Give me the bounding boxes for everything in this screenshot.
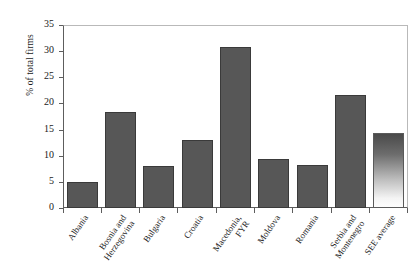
x-label-slot: Moldova bbox=[255, 211, 293, 279]
x-label-slot: Bulgaria bbox=[140, 211, 178, 279]
x-axis-label: Serbia andMontenegro bbox=[325, 213, 367, 261]
x-axis-label: Macedonia,FYR bbox=[211, 213, 252, 259]
x-label-slot: Serbia andMontenegro bbox=[331, 211, 369, 279]
x-axis-label-line: Albania bbox=[66, 213, 91, 242]
x-label-slot: Albania bbox=[63, 211, 101, 279]
bar[interactable] bbox=[143, 166, 174, 208]
y-tick-label: 0 bbox=[49, 201, 54, 212]
y-tick-label: 20 bbox=[44, 96, 54, 107]
bar[interactable] bbox=[373, 133, 404, 208]
bar-slot bbox=[140, 25, 178, 208]
y-tick-label: 15 bbox=[44, 123, 54, 134]
bar[interactable] bbox=[335, 95, 366, 208]
bar-slot bbox=[63, 25, 101, 208]
x-label-slot: Romania bbox=[293, 211, 331, 279]
bar[interactable] bbox=[182, 140, 213, 208]
x-axis-label-line: Moldova bbox=[255, 213, 282, 245]
x-axis-label-line: Romania bbox=[293, 213, 320, 245]
bar-slot bbox=[178, 25, 216, 208]
y-axis: 35302520151050 bbox=[0, 25, 63, 208]
x-axis-label: Moldova bbox=[255, 213, 282, 245]
bar-slot bbox=[293, 25, 331, 208]
bar-slot bbox=[331, 25, 369, 208]
bar[interactable] bbox=[67, 182, 98, 208]
y-tick-label: 25 bbox=[44, 70, 54, 81]
x-axis-label-line: Croatia bbox=[182, 213, 205, 240]
x-axis-labels: AlbaniaBosnia andHerzegovinaBulgariaCroa… bbox=[63, 211, 408, 279]
bar-slot bbox=[255, 25, 293, 208]
bar-slot bbox=[370, 25, 408, 208]
x-axis-label: Romania bbox=[293, 213, 320, 245]
bar-series bbox=[63, 25, 408, 208]
bar[interactable] bbox=[105, 112, 136, 208]
x-axis-label: Croatia bbox=[182, 213, 205, 240]
x-label-slot: SEE average bbox=[370, 211, 408, 279]
y-tick-label: 5 bbox=[49, 175, 54, 186]
y-tick-label: 10 bbox=[44, 149, 54, 160]
bar-slot bbox=[101, 25, 139, 208]
x-label-slot: Croatia bbox=[178, 211, 216, 279]
x-axis-label: Albania bbox=[66, 213, 91, 242]
bar-slot bbox=[216, 25, 254, 208]
x-label-slot: Macedonia,FYR bbox=[216, 211, 254, 279]
y-tick-label: 35 bbox=[44, 18, 54, 29]
x-label-slot: Bosnia andHerzegovina bbox=[101, 211, 139, 279]
y-tick-label: 30 bbox=[44, 44, 54, 55]
x-axis-label-line: Bulgaria bbox=[141, 213, 167, 244]
x-axis-label: Bulgaria bbox=[141, 213, 167, 244]
bar[interactable] bbox=[258, 159, 289, 208]
bar-chart: % of total firms 35302520151050 AlbaniaB… bbox=[0, 0, 416, 279]
bar[interactable] bbox=[220, 47, 251, 208]
bar[interactable] bbox=[297, 165, 328, 208]
x-axis-label: Bosnia andHerzegovina bbox=[94, 213, 137, 262]
